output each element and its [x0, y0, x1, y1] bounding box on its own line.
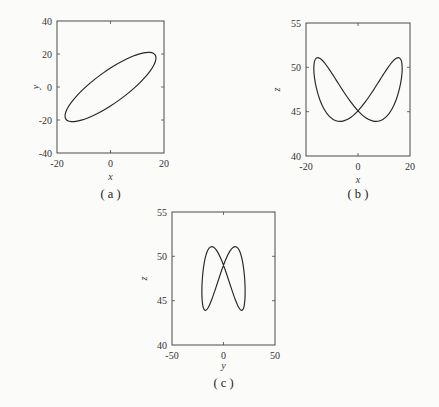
- y-tick-label: 50: [291, 62, 301, 73]
- trajectory-curve: [202, 247, 245, 311]
- panel-a: -20020-40-2002040xy( a ): [30, 16, 169, 202]
- x-tick-label: 0: [356, 161, 361, 172]
- panel-caption: ( c ): [213, 376, 233, 390]
- plot-frame: [306, 23, 410, 156]
- y-tick-label: 40: [291, 151, 301, 162]
- y-tick-label: 45: [291, 106, 301, 117]
- x-tick-label: 0: [108, 158, 113, 169]
- y-tick-label: -20: [39, 115, 52, 126]
- panel-b: -2002040455055xz( b ): [271, 18, 415, 202]
- x-axis-label: x: [107, 171, 113, 182]
- plot-frame: [57, 21, 164, 153]
- x-tick-label: -20: [299, 161, 312, 172]
- x-tick-label: -20: [50, 158, 63, 169]
- y-tick-label: -40: [39, 148, 52, 159]
- trajectory-curve: [314, 58, 402, 122]
- y-tick-label: 0: [47, 82, 52, 93]
- x-tick-label: 50: [270, 350, 280, 361]
- x-tick-label: 20: [159, 158, 169, 169]
- x-axis-label: y: [220, 360, 226, 371]
- figure-canvas: -20020-40-2002040xy( a ) -2002040455055x…: [0, 0, 439, 407]
- y-tick-label: 40: [157, 340, 167, 351]
- y-tick-label: 40: [42, 16, 52, 27]
- plot-frame: [172, 212, 275, 345]
- y-tick-label: 20: [42, 49, 52, 60]
- y-tick-label: 55: [291, 18, 301, 29]
- x-tick-label: -50: [165, 350, 178, 361]
- y-tick-label: 55: [157, 207, 167, 218]
- y-axis-label: z: [271, 87, 282, 92]
- x-tick-label: 20: [405, 161, 415, 172]
- y-tick-label: 45: [157, 295, 167, 306]
- x-axis-label: x: [355, 174, 361, 185]
- y-axis-label: z: [138, 276, 149, 281]
- panel-caption: ( a ): [100, 187, 120, 201]
- panel-c: -5005040455055yz( c ): [138, 207, 280, 391]
- y-tick-label: 50: [157, 251, 167, 262]
- y-axis-label: y: [30, 84, 41, 90]
- panel-caption: ( b ): [348, 187, 369, 201]
- trajectory-curve: [65, 52, 156, 121]
